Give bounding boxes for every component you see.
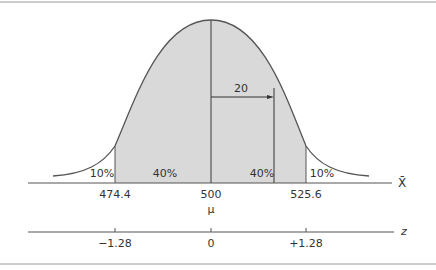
region-label: 10% — [310, 168, 334, 179]
x-axis-label: X̄ — [398, 177, 406, 189]
mu-label: μ — [208, 204, 215, 215]
normal-curve-figure — [0, 0, 436, 270]
x-tick-label: 525.6 — [290, 189, 322, 200]
z-tick-label: 0 — [208, 238, 215, 249]
z-axis-label: z — [401, 226, 407, 237]
region-label: 10% — [90, 168, 114, 179]
x-tick-label: 500 — [201, 189, 222, 200]
x-tick-label: 474.4 — [99, 189, 131, 200]
z-tick-label: −1.28 — [98, 238, 132, 249]
region-label: 40% — [250, 168, 274, 179]
region-label: 40% — [153, 168, 177, 179]
offset-label: 20 — [234, 83, 248, 94]
z-tick-label: +1.28 — [289, 238, 323, 249]
